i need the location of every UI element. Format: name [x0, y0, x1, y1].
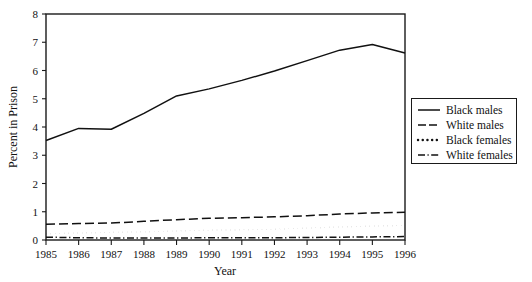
x-tick-label: 1987 — [100, 248, 123, 260]
legend-swatch-dashdot — [416, 148, 442, 162]
y-tick-label: 3 — [33, 149, 39, 161]
y-tick-label: 6 — [33, 65, 39, 77]
y-tick-label: 2 — [33, 178, 39, 190]
legend-swatch-solid — [416, 103, 442, 117]
chart-legend: Black males White males Black females Wh… — [411, 98, 517, 164]
legend-label-black-females: Black females — [446, 133, 511, 147]
x-tick-label: 1996 — [394, 248, 417, 260]
y-axis-title: Percent in Prison — [6, 86, 20, 168]
x-tick-label: 1986 — [68, 248, 91, 260]
y-tick-label: 7 — [33, 36, 39, 48]
series-line-white-females — [46, 237, 405, 238]
x-axis-ticks: 1985198619871988198919901991199219931994… — [35, 240, 417, 260]
legend-swatch-dashed — [416, 118, 442, 132]
legend-item-white-males: White males — [416, 117, 512, 132]
series-lines — [46, 45, 405, 239]
y-axis-ticks: 012345678 — [33, 8, 47, 246]
x-tick-label: 1990 — [198, 248, 221, 260]
x-tick-label: 1991 — [231, 248, 253, 260]
legend-swatch-dotted — [416, 133, 442, 147]
y-tick-label: 4 — [33, 121, 39, 133]
y-tick-label: 1 — [33, 206, 39, 218]
legend-item-white-females: White females — [416, 147, 512, 162]
legend-item-black-females: Black females — [416, 132, 512, 147]
series-line-black-males — [46, 45, 405, 141]
x-tick-label: 1995 — [361, 248, 384, 260]
x-axis-title: Year — [214, 264, 236, 278]
legend-label-white-females: White females — [446, 148, 513, 162]
legend-label-white-males: White males — [446, 118, 504, 132]
y-tick-label: 5 — [33, 93, 39, 105]
y-tick-label: 0 — [33, 234, 39, 246]
x-tick-label: 1994 — [329, 248, 352, 260]
x-tick-label: 1993 — [296, 248, 319, 260]
series-line-white-males — [46, 212, 405, 224]
series-line-black-females — [46, 225, 405, 233]
legend-label-black-males: Black males — [446, 103, 503, 117]
x-tick-label: 1985 — [35, 248, 58, 260]
x-tick-label: 1992 — [263, 248, 285, 260]
chart-figure: 012345678 198519861987198819891990199119… — [0, 0, 532, 282]
x-tick-label: 1988 — [133, 248, 156, 260]
x-tick-label: 1989 — [166, 248, 189, 260]
y-tick-label: 8 — [33, 8, 39, 20]
legend-item-black-males: Black males — [416, 102, 512, 117]
